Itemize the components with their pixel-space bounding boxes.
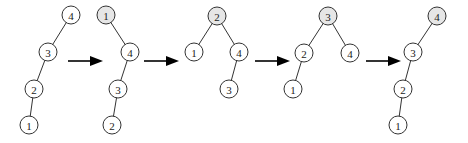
tree-node: 2 [394,80,412,98]
splay-tree-diagram: 43211432214332414321 [0,0,468,143]
tree-node: 1 [389,116,407,134]
node-label: 4 [236,47,242,59]
node-label: 4 [434,11,440,23]
tree-node: 4 [428,7,446,25]
node-label: 1 [103,10,109,22]
node-label: 1 [26,120,32,132]
tree-node: 3 [319,7,337,25]
arrow-right-icon [68,56,103,66]
tree-node: 3 [39,43,57,61]
tree-node: 4 [62,6,80,24]
tree-node: 4 [341,44,359,62]
node-label: 1 [290,84,296,96]
tree-node: 3 [109,80,127,98]
node-label: 4 [127,47,133,59]
arrow-right-icon [144,56,179,66]
node-label: 1 [191,47,197,59]
node-label: 2 [109,120,115,132]
node-label: 3 [325,11,331,23]
tree-4: 3241 [284,7,359,98]
tree-5: 4321 [389,7,446,134]
node-label: 3 [226,84,232,96]
tree-node: 1 [20,116,38,134]
arrow-right-icon [255,56,290,66]
tree-node: 3 [404,43,422,61]
node-label: 2 [301,48,307,60]
node-label: 3 [45,47,51,59]
node-label: 3 [410,47,416,59]
tree-3: 2143 [185,7,248,98]
tree-node: 2 [295,44,313,62]
node-label: 2 [31,84,37,96]
tree-node: 3 [220,80,238,98]
tree-node: 1 [284,80,302,98]
tree-node: 1 [97,6,115,24]
node-label: 4 [347,48,353,60]
tree-node: 2 [103,116,121,134]
tree-2: 1432 [97,6,139,134]
tree-node: 2 [25,80,43,98]
tree-node: 2 [208,7,226,25]
tree-node: 4 [121,43,139,61]
node-label: 4 [68,10,74,22]
node-label: 2 [214,11,220,23]
node-label: 1 [395,120,401,132]
arrow-right-icon [366,56,401,66]
tree-1: 4321 [20,6,80,134]
tree-node: 1 [185,43,203,61]
node-label: 3 [115,84,121,96]
tree-node: 4 [230,43,248,61]
node-label: 2 [400,84,406,96]
